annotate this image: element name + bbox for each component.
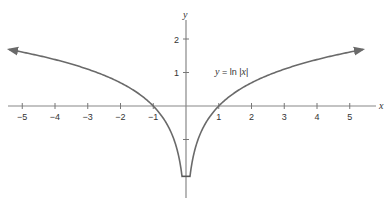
x-axis: x (8, 100, 384, 111)
chart-canvas: x y −5−4−3−2−112345 21 y = ln |x| (0, 0, 388, 200)
equation-middle: = ln | (219, 67, 241, 77)
x-tick-label: 3 (282, 112, 287, 122)
y-tick: 2 (174, 35, 189, 45)
x-tick-label: −4 (50, 112, 60, 122)
y-axis: y (182, 9, 188, 198)
x-tick-label: −2 (115, 112, 125, 122)
x-tick-label: 1 (216, 112, 221, 122)
x-tick-label: 2 (249, 112, 254, 122)
x-tick-label: −3 (83, 112, 93, 122)
x-tick-label: 4 (314, 112, 319, 122)
x-axis-label: x (378, 100, 384, 111)
x-tick-label: −5 (17, 112, 27, 122)
y-tick-label: 1 (174, 68, 179, 78)
x-tick-label: −1 (148, 112, 158, 122)
y-tick: 1 (174, 68, 189, 78)
x-tick-label: 5 (347, 112, 352, 122)
equation-label: y = ln |x| (214, 66, 248, 77)
y-tick-label: 2 (174, 35, 179, 45)
equation-end: | (246, 67, 248, 77)
y-axis-label: y (182, 9, 188, 20)
y-ticks: 21 (174, 35, 189, 140)
